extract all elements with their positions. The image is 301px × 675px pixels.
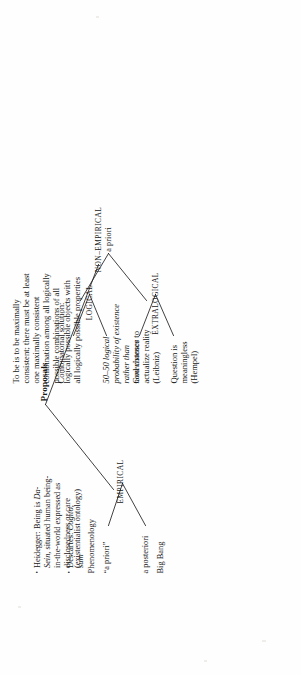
node-combinatorial-body: To be is to be maximally consistent; the…	[10, 271, 81, 383]
node-a-priori: “a priori”	[101, 503, 111, 573]
node-phenomenology: Phenomenology	[86, 493, 96, 573]
node-heidegger-prefix: Heidegger: Being is	[32, 499, 41, 567]
branch-label-non-empirical-text: NON–EMPIRICAL	[93, 206, 102, 271]
node-heidegger: Heidegger: Being is Da-Sein, situated hu…	[32, 474, 81, 574]
node-big-bang: Big Bang	[155, 503, 165, 573]
branch-label-non-empirical: NON–EMPIRICAL a priori	[94, 197, 112, 281]
scanned-page: Proposals EMPIRICAL NON–EMPIRICAL a prio…	[0, 0, 301, 675]
node-hempel: Question is meaningless (Hempel)	[168, 323, 198, 383]
branch-label-logical: LOGICAL	[85, 276, 94, 328]
node-a-posteriori: a posteriori	[140, 503, 150, 573]
branch-label-non-empirical-sub: a priori	[103, 197, 113, 281]
node-fifty-fifty: 50–50 logical probability of existence r…	[100, 301, 140, 383]
diagram-canvas: Proposals EMPIRICAL NON–EMPIRICAL a prio…	[0, 0, 301, 675]
node-heidegger-rest: , situated human being-in-the-world expr…	[42, 475, 81, 567]
branch-label-empirical: EMPIRICAL	[116, 451, 125, 511]
